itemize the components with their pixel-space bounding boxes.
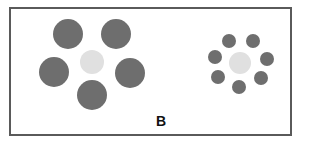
left-cluster-surround-circle bbox=[115, 58, 145, 88]
right-cluster-surround-circle bbox=[222, 34, 236, 48]
left-cluster-surround-circle bbox=[39, 57, 69, 87]
right-cluster-center-circle bbox=[229, 52, 251, 74]
right-cluster-surround-circle bbox=[254, 71, 268, 85]
right-cluster-surround-circle bbox=[260, 52, 274, 66]
right-cluster-surround-circle bbox=[208, 50, 222, 64]
right-cluster-surround-circle bbox=[232, 80, 246, 94]
right-cluster-surround-circle bbox=[211, 70, 225, 84]
left-cluster-surround-circle bbox=[53, 19, 83, 49]
left-cluster-center-circle bbox=[80, 50, 104, 74]
figure-label: B bbox=[156, 114, 166, 128]
left-cluster-surround-circle bbox=[77, 80, 107, 110]
left-cluster-surround-circle bbox=[101, 19, 131, 49]
right-cluster-surround-circle bbox=[246, 34, 260, 48]
